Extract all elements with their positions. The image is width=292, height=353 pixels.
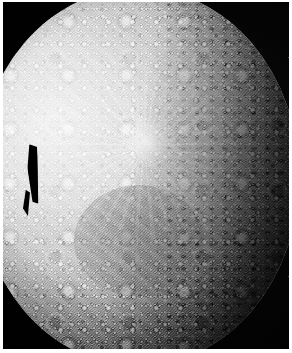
moon-disc bbox=[3, 2, 289, 349]
limb-brightening bbox=[3, 2, 289, 349]
moon-disc-container bbox=[3, 2, 289, 349]
photographic-plate bbox=[3, 2, 289, 349]
image-viewport bbox=[0, 0, 292, 353]
